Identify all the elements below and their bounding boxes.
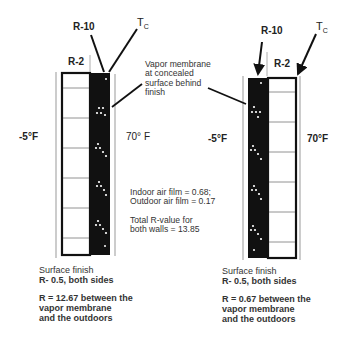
right-wall <box>208 34 316 260</box>
left-result-line-1: R = 12.67 between the <box>39 293 133 303</box>
left-finish-value: R- 0.5, both sides <box>39 275 133 285</box>
right-result-line-1: R = 0.67 between the <box>222 294 311 304</box>
left-tc-sub: C <box>144 23 149 30</box>
right-r2-panel <box>268 78 296 258</box>
film-note-line-2: Outdoor air film = 0.17 <box>130 197 215 206</box>
right-r10-arrow <box>258 42 262 74</box>
left-finish-title: Surface finish <box>39 265 133 275</box>
air-film-note: Indoor air film = 0.68; Outdoor air film… <box>130 188 215 207</box>
left-result-line-3: and the outdoors <box>39 313 133 323</box>
vapor-note-line-4: finish <box>145 88 211 97</box>
left-tc-leader <box>109 29 137 72</box>
left-r10-insulation <box>90 73 110 255</box>
left-outdoor-temp: -5°F <box>19 131 38 142</box>
left-indoor-temp: 70° F <box>126 131 150 142</box>
right-caption: Surface finish R- 0.5, both sides R = 0.… <box>222 266 311 324</box>
left-result-line-2: vapor membrane <box>39 303 133 313</box>
right-finish-value: R- 0.5, both sides <box>222 276 311 286</box>
right-result-line-3: and the outdoors <box>222 314 311 324</box>
right-tc-main: T <box>316 20 323 32</box>
right-result-line-2: vapor membrane <box>222 304 311 314</box>
right-indoor-temp: 70°F <box>307 133 328 144</box>
total-note-line-2: both walls = 13.85 <box>130 225 200 234</box>
right-vapor-leader <box>208 88 246 104</box>
total-r-value-note: Total R-value for both walls = 13.85 <box>130 216 200 235</box>
right-tc-arrow <box>298 34 316 74</box>
left-tc-label: TC <box>137 17 149 32</box>
left-r2-label: R-2 <box>68 56 84 67</box>
left-r10-label: R-10 <box>73 21 95 32</box>
right-outdoor-temp: -5°F <box>208 133 227 144</box>
vapor-membrane-note: Vapor membrane at concealed surface behi… <box>145 60 211 98</box>
right-tc-sub: C <box>323 27 328 34</box>
left-vapor-leader <box>112 84 142 107</box>
right-finish-title: Surface finish <box>222 266 311 276</box>
left-r2-panel <box>62 73 90 255</box>
left-caption: Surface finish R- 0.5, both sides R = 12… <box>39 265 133 323</box>
left-r10-leader <box>91 35 104 72</box>
right-r2-label: R-2 <box>274 58 290 69</box>
right-tc-label: TC <box>316 21 328 36</box>
right-r10-label: R-10 <box>261 25 283 36</box>
left-tc-main: T <box>137 16 144 28</box>
